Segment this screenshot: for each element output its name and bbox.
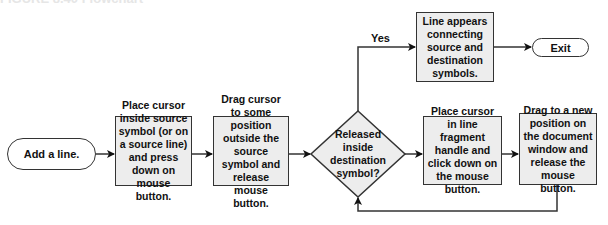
- step-place-cursor-source: Place cursor inside source symbol (or on…: [115, 116, 192, 186]
- decision-label: Released inside destination symbol?: [326, 128, 390, 180]
- yes-label: Yes: [371, 32, 390, 44]
- step-place-cursor-fragment: Place cursor in line fragment handle and…: [423, 116, 502, 185]
- step-line-appears: Line appears connecting source and desti…: [416, 12, 494, 82]
- step1-label: Place cursor inside source symbol (or on…: [118, 99, 189, 203]
- step4-label: Drag to a new position on the document w…: [522, 104, 594, 195]
- step2-label: Drag cursor to some position outside the…: [216, 93, 286, 210]
- exit-terminal: Exit: [532, 38, 589, 57]
- step3-label: Place cursor in line fragment handle and…: [426, 105, 499, 196]
- start-terminal: Add a line.: [7, 138, 96, 170]
- success-label: Line appears connecting source and desti…: [419, 15, 491, 80]
- decision-text: Released inside destination symbol?: [326, 126, 390, 182]
- connectors: [0, 0, 608, 225]
- step-drag-cursor: Drag cursor to some position outside the…: [213, 116, 289, 186]
- exit-label: Exit: [550, 42, 570, 54]
- start-label: Add a line.: [24, 148, 80, 160]
- step-drag-new-position: Drag to a new position on the document w…: [519, 113, 597, 185]
